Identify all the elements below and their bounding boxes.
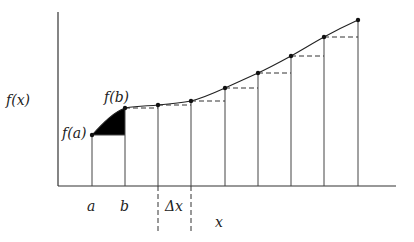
y-axis-label: f(x)	[5, 92, 30, 108]
b-label: b	[120, 198, 129, 214]
shaded-area	[92, 108, 125, 135]
partition-lines	[92, 20, 358, 186]
riemann-sum-diagram: f(x) f(b) f(a) a b Δx x	[0, 0, 414, 242]
x-axis-label: x	[215, 214, 223, 230]
fb-label: f(b)	[103, 89, 129, 105]
rectangle-tops-dashed	[125, 37, 358, 108]
fa-label: f(a)	[61, 125, 86, 141]
a-label: a	[87, 198, 95, 214]
delta-x-label: Δx	[164, 198, 183, 214]
